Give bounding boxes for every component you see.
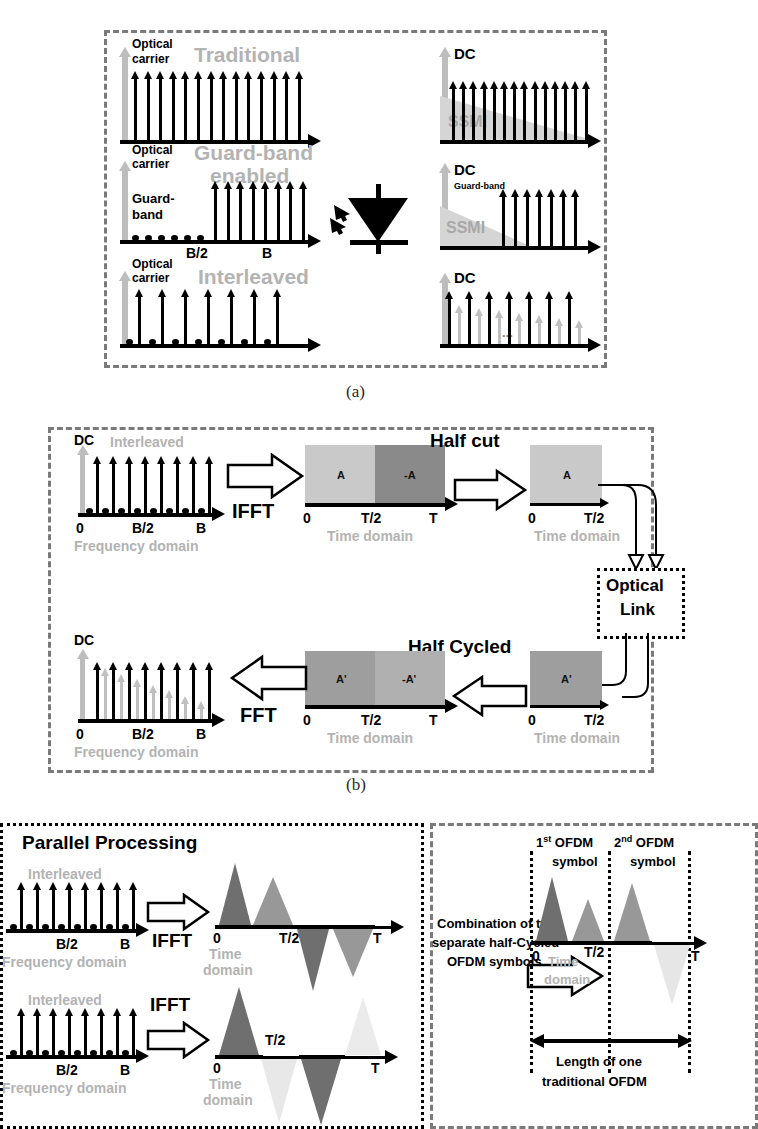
interleaved-title: Interleaved	[198, 266, 309, 288]
tone-arrowhead	[173, 456, 181, 464]
tone-arrowhead	[156, 71, 164, 79]
photodiode-symbol	[330, 178, 430, 258]
tone-stem	[534, 88, 537, 140]
optical-link-label-line1: Optical	[606, 577, 664, 595]
tone-arrowhead	[181, 71, 189, 79]
tone-arrowhead	[157, 662, 165, 670]
tone-stem	[503, 88, 506, 140]
tone-arrowhead	[270, 71, 278, 79]
tone-arrowhead	[33, 1008, 41, 1016]
tone-dot	[198, 508, 205, 514]
tone-stem	[273, 78, 276, 140]
tone-stem	[452, 88, 455, 140]
tone-stem	[498, 317, 501, 344]
tone-arrowhead	[181, 696, 189, 704]
tone-stem	[207, 296, 210, 344]
tone-arrowhead	[515, 313, 523, 321]
tone-stem	[176, 463, 179, 513]
time-axis-mid2	[299, 1055, 345, 1059]
tone-stem	[554, 88, 557, 140]
tone-stem	[96, 463, 99, 513]
tone-arrowhead	[274, 181, 282, 189]
tone-stem	[462, 88, 465, 140]
tone-stem	[514, 196, 517, 246]
tone-arrowhead	[97, 1008, 105, 1016]
tone-stem	[134, 78, 137, 140]
tone-arrowhead	[173, 662, 181, 670]
tone-arrowhead	[535, 189, 543, 197]
tone-arrowhead	[511, 189, 519, 197]
tone-arrowhead	[194, 71, 202, 79]
tone-arrowhead	[144, 71, 152, 79]
freq-axis	[440, 344, 590, 348]
tone-arrowhead	[250, 289, 258, 297]
freq-axis-arrowhead	[588, 134, 601, 148]
tone-stem	[192, 669, 195, 719]
tone-arrowhead	[545, 291, 553, 299]
tone-arrowhead	[211, 181, 219, 189]
tone-arrowhead	[232, 71, 240, 79]
tone-stem	[483, 88, 486, 140]
tone-arrowhead	[129, 882, 137, 890]
tone-dot	[90, 924, 97, 930]
tick-b-half: B/2	[56, 937, 78, 952]
ifft-label-row2: IFFT	[150, 995, 190, 1015]
symbol2-sup: nd	[621, 834, 632, 844]
optical-carrier-label-line2: carrier	[132, 272, 169, 285]
time-axis-arrowhead	[445, 699, 458, 713]
tone-stem	[136, 686, 139, 719]
tone-arrowhead	[555, 318, 563, 326]
tone-stem	[227, 188, 230, 240]
tone-dot	[26, 1050, 33, 1056]
tick-b: B	[196, 727, 206, 742]
tone-stem	[160, 463, 163, 513]
freq-axis	[440, 246, 590, 250]
tone-arrowhead	[101, 668, 109, 676]
tone-stem	[538, 196, 541, 246]
tone-arrowhead	[525, 291, 533, 299]
tone-stem	[160, 669, 163, 719]
frequency-domain-label: Frequency domain	[74, 539, 198, 554]
tone-arrowhead	[158, 289, 166, 297]
tone-arrowhead	[165, 690, 173, 698]
tone-arrowhead	[205, 662, 213, 670]
tone-arrowhead	[49, 1008, 57, 1016]
interleaved-label: Interleaved	[28, 867, 102, 882]
tone-stem	[120, 681, 123, 720]
time-axis-ext	[345, 1056, 387, 1059]
tone-arrowhead	[117, 674, 125, 682]
tone-dot	[134, 508, 141, 514]
tick-b-half: B/2	[132, 727, 154, 742]
tone-stem	[230, 296, 233, 344]
panel-b-bottom-block-full: A' -A' 0 T/2 T Time domain	[305, 651, 465, 761]
traditional-title: Traditional	[194, 44, 300, 66]
tone-stem	[252, 188, 255, 240]
time-axis-arrowhead	[391, 920, 404, 934]
tick-t-half: T/2	[265, 1033, 285, 1048]
tone-dot	[184, 235, 191, 241]
panel-b-top-spectrum: DC Interleaved 0 B/2 B Frequency domain	[56, 433, 246, 543]
panel-b: DC Interleaved 0 B/2 B Frequency domain …	[0, 405, 755, 795]
tone-stem	[523, 88, 526, 140]
tone-arrowhead	[490, 81, 498, 89]
tone-arrowhead	[141, 662, 149, 670]
freq-axis-arrowhead	[588, 240, 601, 254]
tone-stem	[550, 196, 553, 246]
tone-arrowhead	[485, 291, 493, 299]
tone-dot	[197, 235, 204, 241]
optical-carrier-stem	[122, 170, 128, 244]
freq-axis	[120, 344, 310, 348]
tone-stem	[513, 88, 516, 140]
tone-stem	[192, 463, 195, 513]
tone-stem	[538, 322, 541, 344]
tone-dot	[122, 924, 129, 930]
tone-stem	[222, 78, 225, 140]
tone-arrowhead	[445, 291, 453, 299]
tone-arrowhead	[17, 1008, 25, 1016]
tone-stem	[493, 88, 496, 140]
tone-stem	[128, 669, 131, 719]
tick-t: T	[373, 931, 382, 946]
tone-arrowhead	[286, 181, 294, 189]
tone-stem	[458, 312, 461, 344]
dc-carrier-arrowhead	[439, 47, 451, 57]
